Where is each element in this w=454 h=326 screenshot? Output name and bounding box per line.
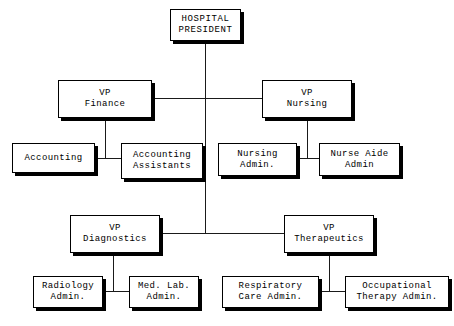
node-label: VP Diagnostics bbox=[81, 223, 149, 245]
node-med-lab-admin[interactable]: Med. Lab. Admin. bbox=[129, 276, 199, 308]
node-radiology-admin[interactable]: Radiology Admin. bbox=[33, 276, 103, 308]
node-accounting[interactable]: Accounting bbox=[12, 143, 95, 173]
node-label: HOSPITAL PRESIDENT bbox=[176, 14, 234, 36]
node-label: Nurse Aide Admin bbox=[328, 149, 390, 171]
node-respiratory-care-admin[interactable]: Respiratory Care Admin. bbox=[222, 276, 319, 308]
org-chart: HOSPITAL PRESIDENT VP Finance VP Nursing… bbox=[0, 0, 454, 326]
node-label: VP Nursing bbox=[285, 88, 330, 110]
connector-vp-tier2-bus bbox=[152, 98, 262, 99]
node-label: Radiology Admin. bbox=[40, 281, 96, 303]
node-occupational-therapy-admin[interactable]: Occupational Therapy Admin. bbox=[345, 276, 449, 308]
connector-vp-finance-down bbox=[105, 118, 106, 158]
node-label: Nursing Admin. bbox=[235, 149, 280, 171]
node-label: Accounting bbox=[22, 153, 84, 164]
node-label: Occupational Therapy Admin. bbox=[354, 281, 439, 303]
node-vp-finance[interactable]: VP Finance bbox=[58, 80, 152, 118]
node-label: VP Therapeutics bbox=[292, 223, 366, 245]
connector-vp-diagnostics-down bbox=[113, 253, 114, 291]
connector-vp-nursing-down bbox=[307, 118, 308, 158]
node-label: VP Finance bbox=[83, 88, 128, 110]
node-accounting-assistants[interactable]: Accounting Assistants bbox=[121, 143, 203, 179]
connector-therapeutics-bus bbox=[319, 291, 345, 292]
connector-nursing-bus bbox=[297, 158, 319, 159]
node-vp-nursing[interactable]: VP Nursing bbox=[262, 80, 352, 118]
node-label: Med. Lab. Admin. bbox=[136, 281, 192, 303]
connector-president-spine bbox=[205, 41, 206, 233]
node-nursing-admin[interactable]: Nursing Admin. bbox=[218, 143, 297, 176]
node-label: Respiratory Care Admin. bbox=[237, 281, 305, 303]
node-vp-therapeutics[interactable]: VP Therapeutics bbox=[284, 215, 374, 253]
connector-vp-tier4-bus bbox=[160, 233, 284, 234]
node-label: Accounting Assistants bbox=[131, 150, 193, 172]
connector-diagnostics-bus bbox=[103, 291, 129, 292]
connector-vp-therapeutics-down bbox=[329, 253, 330, 291]
node-hospital-president[interactable]: HOSPITAL PRESIDENT bbox=[170, 9, 241, 41]
node-vp-diagnostics[interactable]: VP Diagnostics bbox=[70, 215, 160, 253]
connector-accounting-bus bbox=[95, 158, 121, 159]
node-nurse-aide-admin[interactable]: Nurse Aide Admin bbox=[319, 143, 400, 176]
